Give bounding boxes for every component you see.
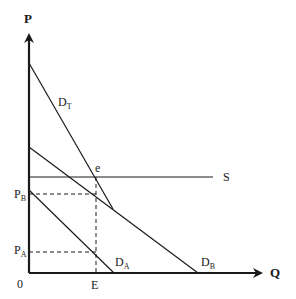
total-demand-label-main: D: [58, 95, 67, 109]
total-demand-label-sub: T: [67, 102, 72, 111]
demand-b-curve: [29, 147, 198, 273]
price-b-label-sub: B: [21, 194, 26, 203]
supply-label: S: [223, 170, 230, 184]
total-demand-label: DT: [58, 95, 72, 111]
price-b-label: PB: [14, 187, 26, 203]
equilibrium-label: e: [95, 161, 100, 175]
y-axis-label: P: [24, 11, 32, 26]
demand-a-label-sub: A: [124, 262, 130, 271]
demand-supply-diagram: P Q 0 S DA DB DT e PB PA E: [0, 0, 296, 299]
demand-a-label: DA: [115, 255, 130, 271]
demand-a-curve: [29, 190, 114, 273]
demand-b-label: DB: [201, 255, 215, 271]
quantity-e-label: E: [91, 278, 98, 292]
total-demand-curve: [29, 63, 113, 209]
demand-b-label-sub: B: [210, 262, 215, 271]
price-a-label: PA: [14, 243, 27, 259]
origin-label: 0: [17, 277, 23, 291]
demand-a-label-main: D: [115, 255, 124, 269]
x-axis-label: Q: [270, 265, 280, 280]
demand-b-label-main: D: [201, 255, 210, 269]
price-a-label-sub: A: [21, 250, 27, 259]
